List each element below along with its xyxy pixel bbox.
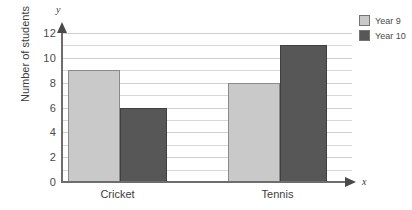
y-axis-arrow-icon xyxy=(57,22,67,33)
bar xyxy=(228,83,280,182)
y-axis-tick-labels: 024681012 xyxy=(28,0,56,210)
bar xyxy=(68,70,120,182)
y-axis-tick-label: 0 xyxy=(32,176,56,188)
bar-chart: y x 024681012 Number of students Year 9Y… xyxy=(0,0,412,210)
legend-swatch-icon xyxy=(359,15,370,26)
x-axis-line xyxy=(61,181,348,183)
legend: Year 9Year 10 xyxy=(359,15,406,41)
x-axis-category-label: Tennis xyxy=(228,188,327,200)
y-axis-title: Number of students xyxy=(19,0,31,124)
bar xyxy=(280,45,327,182)
y-axis-line xyxy=(61,31,63,182)
legend-label: Year 9 xyxy=(375,16,401,26)
legend-swatch-icon xyxy=(359,30,370,41)
y-axis-letter: y xyxy=(56,4,60,15)
legend-item: Year 9 xyxy=(359,15,406,26)
x-axis-arrow-icon xyxy=(345,177,356,187)
y-axis-tick-label: 10 xyxy=(32,52,56,64)
plot-area xyxy=(62,33,352,182)
legend-label: Year 10 xyxy=(375,31,406,41)
gridline xyxy=(62,33,352,34)
legend-item: Year 10 xyxy=(359,30,406,41)
y-axis-tick-label: 2 xyxy=(32,151,56,163)
y-axis-tick-label: 6 xyxy=(32,102,56,114)
y-axis-tick-label: 12 xyxy=(32,27,56,39)
y-axis-tick-label: 4 xyxy=(32,126,56,138)
y-axis-tick-label: 8 xyxy=(32,77,56,89)
x-axis-category-label: Cricket xyxy=(68,188,167,200)
x-axis-letter: x xyxy=(362,176,366,187)
bar xyxy=(120,108,167,183)
